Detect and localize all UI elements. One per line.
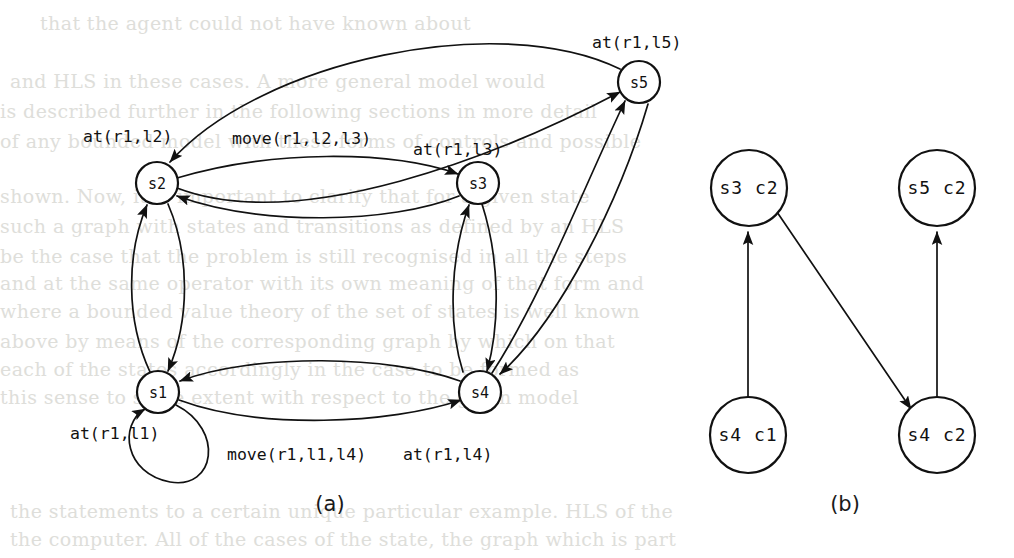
state-node-s2[interactable]: s2 — [136, 162, 178, 204]
policy-node-label: s4 c1 — [718, 424, 777, 445]
edge-s3-to-s4 — [482, 204, 496, 371]
state-node-label: s3 — [469, 175, 487, 193]
caption-a: (a) — [315, 492, 344, 516]
policy-node-s3c2[interactable]: s3 c2 — [711, 150, 787, 226]
annot-s4: at(r1,l4) — [403, 445, 492, 464]
policy-node-s5c2[interactable]: s5 c2 — [899, 150, 975, 226]
panel-a-node-group: s1s2s3s4s5 — [136, 61, 660, 413]
policy-node-s4c2[interactable]: s4 c2 — [899, 397, 975, 473]
caption-b: (b) — [830, 492, 860, 516]
state-node-label: s2 — [148, 175, 166, 193]
edge-s2-to-s3 — [177, 156, 458, 178]
policy-node-label: s3 c2 — [719, 177, 778, 198]
annot-s1: at(r1,l1) — [70, 424, 159, 443]
state-node-label: s1 — [149, 384, 167, 402]
edge-s1-to-s2 — [132, 205, 150, 372]
state-node-label: s5 — [630, 74, 648, 92]
panel-b-node-group: s3 c2s5 c2s4 c1s4 c2 — [710, 150, 975, 473]
figure-canvas: s1s2s3s4s5 at(r1,l5)at(r1,l2)move(r1,l2,… — [0, 0, 1014, 558]
state-node-s5[interactable]: s5 — [618, 61, 660, 103]
panel-b-edge-group — [748, 212, 937, 409]
annot-s2: at(r1,l2) — [83, 127, 172, 146]
edge-s1-self-loop — [129, 405, 208, 483]
panel-a-edge-group — [129, 44, 648, 483]
edge-s4-to-s3 — [453, 205, 469, 372]
edge-s3c2-to-s4c2 — [777, 212, 911, 409]
edge-s1-to-s4 — [179, 400, 461, 420]
state-node-s1[interactable]: s1 — [137, 371, 179, 413]
state-node-s4[interactable]: s4 — [459, 371, 501, 413]
policy-node-label: s5 c2 — [907, 177, 966, 198]
policy-node-s4c1[interactable]: s4 c1 — [710, 397, 786, 473]
edge-s5-to-s4 — [500, 104, 648, 374]
edge-s2-to-s1 — [168, 204, 185, 371]
state-node-label: s4 — [471, 384, 489, 402]
edge-s4-to-s1 — [180, 361, 460, 381]
policy-node-label: s4 c2 — [907, 424, 966, 445]
state-node-s3[interactable]: s3 — [457, 162, 499, 204]
annot-s3: at(r1,l3) — [413, 140, 502, 159]
figure-page: that the agent could not have known abou… — [0, 0, 1014, 558]
annot-s5: at(r1,l5) — [592, 33, 681, 52]
annot-move-l1-l4: move(r1,l1,l4) — [227, 445, 366, 464]
figure-caption-group: (a)(b) — [315, 492, 859, 516]
annot-move-l2-l3: move(r1,l2,l3) — [232, 129, 371, 148]
